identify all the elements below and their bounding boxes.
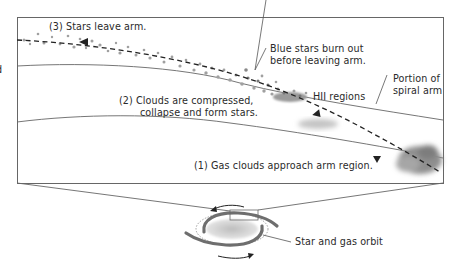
label-step2-line2: collapse and form stars. xyxy=(140,107,258,118)
leader-orbit xyxy=(263,235,291,242)
label-blue-stars-line2: before leaving arm. xyxy=(270,55,366,66)
hii-region-cluster xyxy=(273,92,307,102)
orbit-arrow-top xyxy=(214,205,244,209)
label-step2-line1: (2) Clouds are compressed, xyxy=(119,95,254,106)
zoom-line-right xyxy=(258,183,443,210)
zoom-line-left xyxy=(17,183,230,211)
diagram-canvas xyxy=(0,0,462,275)
label-spiral-arm-line2: spiral arm xyxy=(393,85,442,96)
star-gas-trajectory xyxy=(17,40,440,172)
label-blue-stars-line1: Blue stars burn out xyxy=(270,43,364,54)
label-star-gas-orbit: Star and gas orbit xyxy=(295,236,383,247)
label-step1-gas-clouds: (1) Gas clouds approach arm region. xyxy=(194,160,373,171)
orbit-arrowhead-top-icon xyxy=(210,206,217,212)
label-step3-stars-leave-arm: (3) Stars leave arm. xyxy=(49,21,147,32)
leader-spiral-arm xyxy=(376,75,387,104)
star-dots xyxy=(23,33,308,98)
edge-text-fragment: d xyxy=(0,64,2,75)
gas-cloud-compressed xyxy=(298,119,338,129)
orbit-arrow-bottom xyxy=(218,256,250,258)
label-spiral-arm-line1: Portion of xyxy=(393,73,440,84)
galaxy-overview xyxy=(186,205,277,259)
orbit-arrowhead-bottom-icon xyxy=(248,253,254,259)
arrowhead-compression-icon xyxy=(312,109,323,120)
label-hii-regions: HII regions xyxy=(313,91,365,102)
arrowhead-approach-icon xyxy=(373,156,381,163)
